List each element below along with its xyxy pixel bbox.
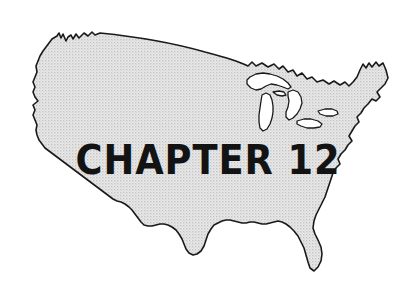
mainland-usa-outline [33,32,388,271]
chapter-opener-page: CHAPTER 12 [0,0,417,292]
united-states-map-svg [0,0,417,292]
lake-ontario [318,109,338,116]
united-states-map-figure [0,0,417,292]
